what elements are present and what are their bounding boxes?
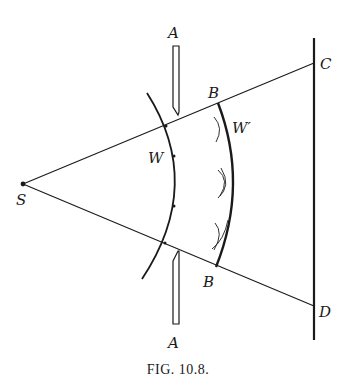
secondary-wavelet [214,117,220,142]
aperture-plate-top [173,46,179,115]
ray-upper [23,63,314,184]
ray-lower [23,184,314,306]
label-screen-top: C [320,55,332,73]
label-edge-top: B [207,84,219,102]
secondary-source-dot [165,125,168,128]
label-screen-bottom: D [318,303,331,321]
label-slit-bottom: A [166,334,179,352]
secondary-source-dot [173,205,176,208]
huygens-wavefront-diagram: A A S C D W W′ B B FIG. 10.8. [0,0,357,392]
aperture-plate-bottom [173,251,179,324]
wavefront-w [142,93,175,279]
secondary-source-dot [173,155,176,158]
label-source: S [16,191,26,209]
label-edge-bottom: B [202,273,214,291]
label-wavefront-w-prime: W′ [232,119,251,137]
label-slit-top: A [166,24,179,42]
label-wavefront-w: W [148,149,165,167]
secondary-wavelet [214,223,219,250]
figure-caption: FIG. 10.8. [147,362,210,377]
secondary-source-dot [164,242,167,245]
source-point [21,182,26,187]
